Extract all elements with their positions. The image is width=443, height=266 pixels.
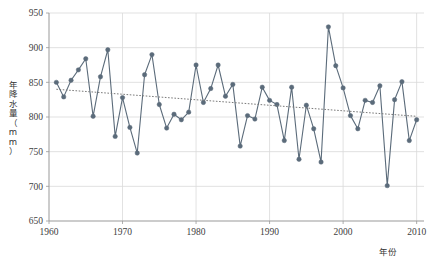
data-point-marker bbox=[157, 102, 161, 106]
data-point-marker bbox=[356, 127, 360, 131]
data-point-marker bbox=[201, 100, 205, 104]
data-point-marker bbox=[128, 125, 132, 129]
data-point-marker bbox=[223, 94, 227, 98]
data-point-marker bbox=[69, 78, 73, 82]
data-point-marker bbox=[319, 160, 323, 164]
data-point-marker bbox=[370, 100, 374, 104]
data-point-marker bbox=[164, 126, 168, 130]
data-point-marker bbox=[113, 134, 117, 138]
data-point-marker bbox=[238, 144, 242, 148]
y-tick-label: 900 bbox=[29, 43, 44, 53]
x-tick-label: 2010 bbox=[407, 227, 426, 237]
y-tick-label: 950 bbox=[29, 8, 44, 18]
chart-canvas: 6507007508008509009501960197019801990200… bbox=[0, 0, 443, 266]
data-point-marker bbox=[194, 63, 198, 67]
data-point-marker bbox=[282, 138, 286, 142]
data-point-marker bbox=[304, 103, 308, 107]
y-axis-title: 年降水量（mm） bbox=[9, 80, 18, 157]
data-point-marker bbox=[142, 73, 146, 77]
data-point-marker bbox=[209, 86, 213, 90]
data-point-marker bbox=[62, 95, 66, 99]
data-point-marker bbox=[289, 85, 293, 89]
data-point-marker bbox=[245, 113, 249, 117]
y-tick-label: 650 bbox=[29, 216, 44, 226]
data-point-marker bbox=[179, 118, 183, 122]
precipitation-chart: 6507007508008509009501960197019801990200… bbox=[0, 0, 443, 266]
data-point-marker bbox=[312, 127, 316, 131]
data-point-marker bbox=[231, 82, 235, 86]
data-point-marker bbox=[326, 25, 330, 29]
data-point-marker bbox=[172, 112, 176, 116]
data-point-marker bbox=[267, 98, 271, 102]
y-tick-label: 850 bbox=[29, 78, 44, 88]
data-point-marker bbox=[400, 79, 404, 83]
data-point-marker bbox=[297, 157, 301, 161]
x-tick-label: 1960 bbox=[40, 227, 59, 237]
data-point-marker bbox=[378, 84, 382, 88]
data-point-marker bbox=[76, 68, 80, 72]
x-tick-label: 1980 bbox=[187, 227, 206, 237]
data-point-marker bbox=[414, 118, 418, 122]
data-point-marker bbox=[253, 117, 257, 121]
data-point-marker bbox=[91, 114, 95, 118]
data-point-marker bbox=[120, 95, 124, 99]
data-point-marker bbox=[187, 110, 191, 114]
data-point-marker bbox=[334, 63, 338, 67]
data-point-marker bbox=[407, 138, 411, 142]
y-tick-label: 800 bbox=[29, 112, 44, 122]
data-point-marker bbox=[341, 86, 345, 90]
data-point-marker bbox=[216, 63, 220, 67]
x-tick-label: 1970 bbox=[113, 227, 132, 237]
data-point-marker bbox=[54, 80, 58, 84]
data-point-marker bbox=[98, 75, 102, 79]
data-point-marker bbox=[135, 151, 139, 155]
data-point-marker bbox=[150, 52, 154, 56]
x-axis-title: 年份 bbox=[379, 247, 397, 257]
y-tick-label: 700 bbox=[29, 182, 44, 192]
data-point-marker bbox=[348, 113, 352, 117]
data-point-marker bbox=[84, 57, 88, 61]
x-tick-label: 1990 bbox=[260, 227, 279, 237]
data-point-marker bbox=[392, 97, 396, 101]
data-point-marker bbox=[260, 85, 264, 89]
data-point-marker bbox=[363, 98, 367, 102]
y-tick-label: 750 bbox=[29, 147, 44, 157]
x-tick-label: 2000 bbox=[334, 227, 353, 237]
data-point-marker bbox=[385, 183, 389, 187]
data-point-marker bbox=[106, 48, 110, 52]
